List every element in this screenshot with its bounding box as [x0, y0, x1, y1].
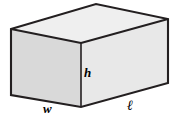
- length-label: ℓ: [127, 99, 133, 113]
- height-label: h: [84, 66, 91, 79]
- width-label: w: [43, 102, 52, 115]
- box-drawing: [0, 0, 177, 124]
- rectangular-box-figure: h w ℓ: [0, 0, 177, 124]
